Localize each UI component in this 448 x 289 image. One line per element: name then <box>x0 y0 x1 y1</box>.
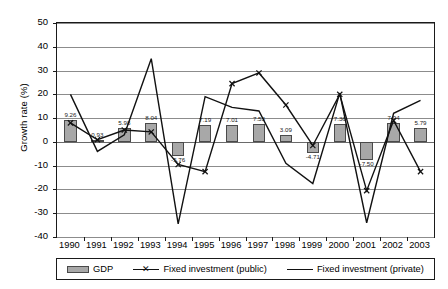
legend-entry: ✕Fixed investment (public) <box>133 264 266 274</box>
y-tick-label: 10 <box>8 112 48 122</box>
y-tick-mark <box>53 237 57 238</box>
y-tick-label: 30 <box>8 65 48 75</box>
x-marker <box>310 143 315 148</box>
legend-line-swatch <box>287 265 313 274</box>
y-tick-label: -10 <box>8 160 48 170</box>
line-private <box>70 59 420 224</box>
x-tick-label: 2003 <box>400 241 440 250</box>
legend-x-marker-icon: ✕ <box>142 265 150 274</box>
x-marker <box>283 102 288 107</box>
y-tick-label: 40 <box>8 41 48 51</box>
y-tick-label: -40 <box>8 231 48 241</box>
legend-entry: Fixed investment (private) <box>287 264 424 274</box>
y-tick-label: 50 <box>8 17 48 27</box>
legend-label: Fixed investment (private) <box>317 264 424 274</box>
line-series-layer <box>57 23 434 237</box>
growth-rate-chart: Growth rate (%) 9.260.935.988.04-5.767.1… <box>0 0 448 289</box>
x-marker <box>68 120 73 125</box>
x-marker <box>418 169 423 174</box>
y-tick-label: 20 <box>8 88 48 98</box>
legend-entry: GDP <box>67 264 113 274</box>
legend-line-segment <box>287 269 313 270</box>
y-tick-label: -30 <box>8 207 48 217</box>
legend-label: Fixed investment (public) <box>163 264 266 274</box>
y-tick-label: -20 <box>8 183 48 193</box>
legend-bar-swatch <box>67 266 89 273</box>
legend-line-swatch: ✕ <box>133 265 159 274</box>
y-tick-label: 0 <box>8 136 48 146</box>
plot-area: 9.260.935.988.04-5.767.197.017.533.09-4.… <box>56 22 435 238</box>
chart-legend: GDP✕Fixed investment (public)Fixed inves… <box>56 258 435 280</box>
legend-label: GDP <box>93 264 113 274</box>
